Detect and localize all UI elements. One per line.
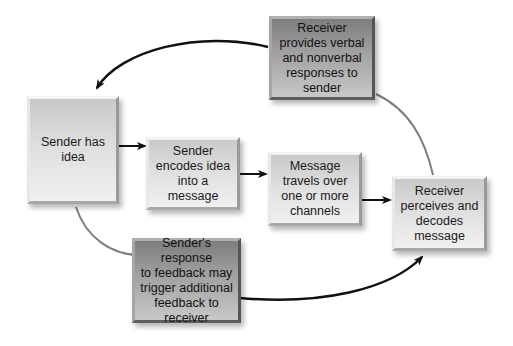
node-receiver-feedback: Receiver provides verbal and nonverbal r… [269,16,375,100]
node-label: Message travels over one or more channel… [281,159,348,219]
line-decode-to-feedback [376,94,433,175]
communication-cycle-diagram: Sender has idea Sender encodes idea into… [0,0,513,346]
node-message-channels: Message travels over one or more channel… [268,152,362,226]
node-sender-response: Sender's response to feedback may trigge… [132,238,241,323]
node-sender-encodes: Sender encodes idea into a message [146,137,240,210]
arrow-response-to-decode [240,257,422,300]
node-receiver-decodes: Receiver perceives and decodes message [392,176,487,251]
arrow-feedback-to-sender [97,41,268,88]
node-sender-has-idea: Sender has idea [27,96,119,204]
node-label: Sender's response to feedback may trigge… [139,236,234,326]
node-label: Sender encodes idea into a message [156,144,230,204]
node-label: Receiver perceives and decodes message [401,184,479,244]
node-label: Sender has idea [41,135,105,165]
node-label: Receiver provides verbal and nonverbal r… [280,21,365,96]
